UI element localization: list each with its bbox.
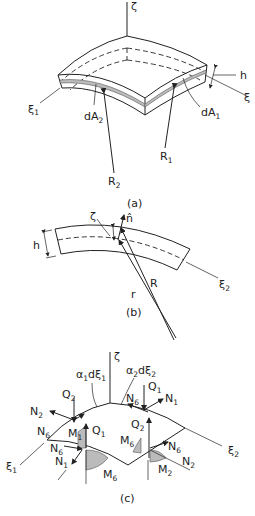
xi2-label: ξ2 — [219, 278, 230, 293]
shell-bottom-edge — [61, 250, 177, 270]
xi1-axis — [20, 443, 44, 465]
M2-distribution — [150, 450, 166, 462]
zeta-label: ζ — [131, 0, 137, 13]
alpha2-dxi2-label: α2dξ2 — [126, 364, 156, 379]
Q1-top-label: Q1 — [148, 380, 162, 395]
xi2-label: ξ2 — [228, 444, 239, 459]
N6-top-label: N6 — [126, 392, 139, 407]
N2-right-label: N2 — [182, 455, 195, 470]
xi1-label: ξ1 — [6, 460, 17, 475]
M6-right-label: M6 — [120, 434, 135, 449]
dA2-leader — [94, 84, 96, 105]
panel-c: ζ ξ1 ξ2 α1dξ1 α2dξ2 Q1 N1 N6 Q2 N2 N6 M1… — [6, 350, 239, 505]
h-label: h — [33, 239, 40, 252]
Q1-front-label: Q1 — [92, 424, 106, 439]
R1-label: R1 — [160, 150, 173, 165]
h-ext-bottom — [46, 256, 56, 258]
M1-label: M1 — [68, 427, 83, 442]
R-vector — [119, 240, 176, 338]
N6-right-arrow — [150, 442, 168, 448]
R2-arrow — [104, 93, 114, 173]
h-label: h — [240, 69, 247, 82]
zeta-label: ζ — [114, 350, 120, 363]
dA1-label: dA1 — [201, 106, 221, 121]
xi1-axis — [40, 88, 60, 103]
N6-left-label: N6 — [37, 425, 50, 440]
N1-front-label: N1 — [55, 455, 68, 470]
N2-left-label: N2 — [30, 405, 43, 420]
r-vector — [121, 228, 174, 340]
N1-top-arrow — [144, 399, 163, 410]
M6-front-label: M6 — [103, 468, 118, 483]
n-hat-label: n̂ — [126, 212, 133, 225]
M6-front-distribution — [86, 450, 108, 470]
alpha1-dxi1-label: α1dξ1 — [76, 368, 106, 383]
M2-label: M2 — [158, 463, 173, 478]
h-dimension — [44, 233, 48, 256]
r-label: r — [131, 288, 136, 301]
shell-right-end — [177, 249, 190, 270]
shell-left-end — [55, 229, 61, 254]
N6-right-label: N6 — [168, 440, 181, 455]
N1-top-label: N1 — [165, 392, 178, 407]
bottom-surface-dashed — [70, 60, 200, 90]
zeta-label: ζ — [90, 210, 96, 223]
h-ext-top — [42, 230, 52, 232]
panel-a: ζ h ξ ξ1 dA2 dA1 R1 R2 — [28, 0, 250, 210]
zeta-dimension — [113, 227, 114, 240]
layer-dA1 — [145, 70, 206, 107]
Q2-right-label: Q2 — [131, 418, 145, 433]
xi2-axis — [186, 262, 218, 278]
caption-a: (a) — [127, 197, 142, 210]
xi1-label: ξ1 — [28, 103, 39, 117]
caption-c: (c) — [120, 492, 135, 505]
panel-b: h ζ n̂ R r ξ2 (b) — [33, 210, 230, 340]
R-label: R — [150, 277, 158, 290]
N1-tail — [58, 470, 66, 480]
shell-element-diagram: ζ h ξ ξ1 dA2 dA1 R1 R2 — [0, 0, 255, 516]
xi2-label: ξ — [244, 91, 250, 104]
right-face — [145, 65, 207, 115]
shell-mid-surface — [58, 237, 184, 260]
R2-label: R2 — [108, 175, 121, 190]
N1-front-arrow — [72, 450, 82, 464]
dA2-label: dA2 — [84, 110, 104, 125]
R1-arrow — [165, 88, 174, 148]
Q2-left-label: Q2 — [62, 388, 76, 403]
xi2-axis — [185, 428, 222, 446]
zeta-leader — [97, 219, 110, 236]
N2-left-arrow — [50, 411, 74, 420]
top-surface-back-edges — [58, 36, 207, 75]
caption-b: (b) — [126, 306, 142, 319]
alpha1-leader — [92, 383, 97, 407]
